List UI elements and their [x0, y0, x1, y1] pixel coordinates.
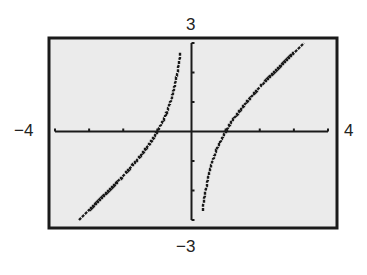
- graph-screen: [0, 0, 367, 275]
- plot-frame: [49, 38, 337, 228]
